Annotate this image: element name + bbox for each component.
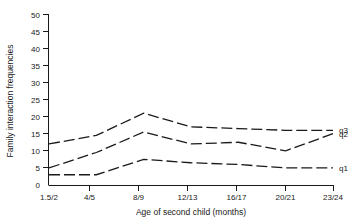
- x-tick-label-2: 4/5: [84, 193, 96, 202]
- chart-background: [0, 0, 357, 221]
- y-tick-label-35: 35: [31, 62, 40, 71]
- x-axis-title: Age of second child (months): [136, 207, 246, 217]
- series-label-q2: q2: [339, 130, 348, 139]
- x-tick-label-4: 12/13: [177, 193, 198, 202]
- y-tick-label-45: 45: [31, 28, 40, 37]
- y-tick-label-0: 0: [36, 181, 41, 190]
- y-axis-title: Family interaction frequencies: [5, 45, 15, 158]
- y-tick-label-10: 10: [31, 147, 40, 156]
- x-tick-label-5: 16/17: [226, 193, 247, 202]
- y-tick-label-50: 50: [31, 11, 40, 20]
- line-chart-figure: 50 45 40 35 30 25 20 15 10 5 0 1.5/2 4/5…: [0, 0, 357, 221]
- y-tick-label-20: 20: [31, 113, 40, 122]
- x-tick-label-6: 20/21: [275, 193, 296, 202]
- x-tick-label-3: 8/9: [133, 193, 145, 202]
- y-tick-label-30: 30: [31, 79, 40, 88]
- series-label-q1: q1: [339, 164, 348, 173]
- y-tick-label-40: 40: [31, 45, 40, 54]
- y-tick-label-15: 15: [31, 130, 40, 139]
- y-tick-label-25: 25: [31, 96, 40, 105]
- x-tick-label-7: 23/24: [323, 193, 344, 202]
- y-tick-label-5: 5: [36, 164, 41, 173]
- chart-canvas: 50 45 40 35 30 25 20 15 10 5 0 1.5/2 4/5…: [0, 0, 357, 221]
- x-tick-label-1: 1.5/2: [40, 193, 58, 202]
